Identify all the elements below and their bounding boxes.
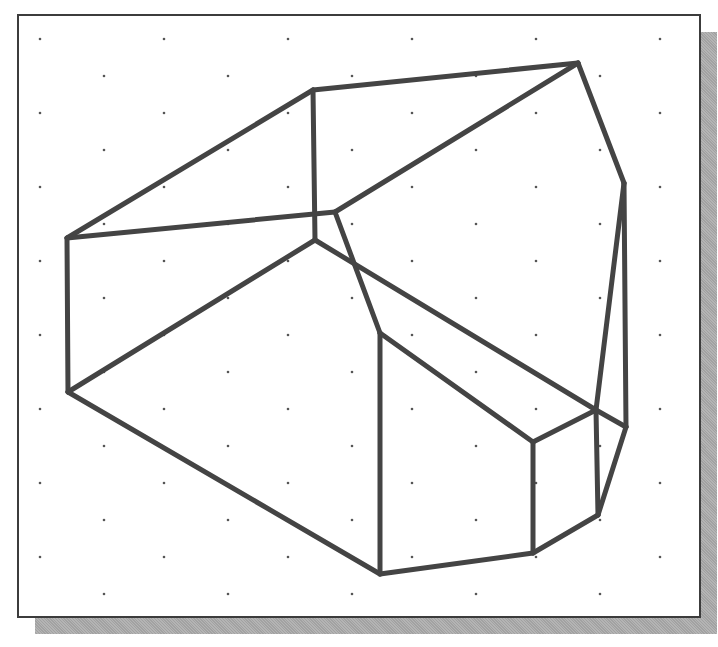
grid-dot <box>475 149 478 152</box>
grid-dot <box>599 149 602 152</box>
grid-dot <box>163 186 166 189</box>
grid-dot <box>535 334 538 337</box>
grid-dot <box>475 519 478 522</box>
grid-dot <box>475 593 478 596</box>
grid-dot <box>287 556 290 559</box>
grid-dot <box>351 297 354 300</box>
polyhedron-edge <box>67 238 68 392</box>
grid-dot <box>659 408 662 411</box>
polyhedron-edge <box>68 392 380 574</box>
polyhedron-edge <box>624 183 626 427</box>
polyhedron-edge <box>533 515 598 553</box>
grid-dot <box>535 38 538 41</box>
grid-dot <box>535 186 538 189</box>
grid-dot <box>39 334 42 337</box>
grid-dot <box>103 519 106 522</box>
grid-dot <box>535 260 538 263</box>
grid-dot <box>227 149 230 152</box>
grid-dot <box>535 112 538 115</box>
polyhedron-edge <box>533 410 596 442</box>
grid-dot <box>351 371 354 374</box>
grid-dot <box>659 334 662 337</box>
grid-dot <box>39 556 42 559</box>
grid-dot <box>227 371 230 374</box>
grid-dot <box>351 445 354 448</box>
grid-dot <box>103 75 106 78</box>
grid-dot <box>287 482 290 485</box>
grid-dot <box>351 223 354 226</box>
grid-dot <box>411 112 414 115</box>
grid-dot <box>411 334 414 337</box>
grid-dot <box>163 38 166 41</box>
grid-dot <box>475 445 478 448</box>
grid-dot <box>659 556 662 559</box>
grid-dot <box>39 38 42 41</box>
grid-dot <box>351 75 354 78</box>
grid-dot <box>227 445 230 448</box>
polyhedron-edge <box>598 427 626 515</box>
polyhedron-edge <box>596 410 598 515</box>
polyhedron-edge <box>380 333 533 442</box>
grid-dot <box>599 297 602 300</box>
grid-dot <box>39 482 42 485</box>
grid-dot <box>475 223 478 226</box>
isometric-dot-grid <box>39 38 662 596</box>
grid-dot <box>287 334 290 337</box>
grid-dot <box>163 556 166 559</box>
grid-dot <box>599 519 602 522</box>
grid-dot <box>411 408 414 411</box>
grid-dot <box>163 112 166 115</box>
grid-dot <box>535 556 538 559</box>
polyhedron-edge <box>596 410 626 427</box>
grid-dot <box>599 593 602 596</box>
grid-dot <box>287 408 290 411</box>
grid-dot <box>227 593 230 596</box>
grid-dot <box>599 75 602 78</box>
grid-dot <box>351 519 354 522</box>
grid-dot <box>287 186 290 189</box>
grid-dot <box>475 371 478 374</box>
grid-dot <box>411 186 414 189</box>
grid-dot <box>103 297 106 300</box>
grid-dot <box>351 593 354 596</box>
grid-dot <box>103 223 106 226</box>
polyhedron-edge <box>596 183 624 410</box>
grid-dot <box>659 482 662 485</box>
polyhedron-edges <box>67 63 626 574</box>
grid-dot <box>659 186 662 189</box>
grid-dot <box>39 408 42 411</box>
polyhedron-diagram <box>0 0 718 647</box>
grid-dot <box>411 482 414 485</box>
grid-dot <box>659 38 662 41</box>
polyhedron-edge <box>578 63 624 183</box>
grid-dot <box>351 149 354 152</box>
grid-dot <box>535 408 538 411</box>
grid-dot <box>103 593 106 596</box>
grid-dot <box>659 112 662 115</box>
polyhedron-edge <box>313 90 315 240</box>
grid-dot <box>599 223 602 226</box>
grid-dot <box>475 297 478 300</box>
grid-dot <box>103 149 106 152</box>
grid-dot <box>411 260 414 263</box>
grid-dot <box>659 260 662 263</box>
polyhedron-edge <box>380 553 533 574</box>
polyhedron-edge <box>68 240 315 392</box>
grid-dot <box>287 112 290 115</box>
grid-dot <box>163 260 166 263</box>
grid-dot <box>39 186 42 189</box>
grid-dot <box>287 38 290 41</box>
grid-dot <box>163 482 166 485</box>
grid-dot <box>227 297 230 300</box>
grid-dot <box>227 75 230 78</box>
grid-dot <box>103 445 106 448</box>
grid-dot <box>411 38 414 41</box>
grid-dot <box>39 260 42 263</box>
grid-dot <box>39 112 42 115</box>
grid-dot <box>227 519 230 522</box>
grid-dot <box>163 408 166 411</box>
grid-dot <box>411 556 414 559</box>
